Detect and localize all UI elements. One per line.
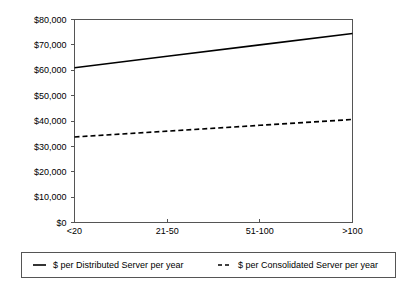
line-chart: $0$10,000$20,000$30,000$40,000$50,000$60… — [0, 0, 417, 290]
y-tick-label: $20,000 — [34, 167, 67, 177]
y-tick-label: $30,000 — [34, 142, 67, 152]
legend-entry-consolidated: $ per Consolidated Server per year — [218, 260, 378, 270]
series-distributed-server-line — [75, 33, 353, 67]
series-consolidated-server-line — [75, 119, 353, 137]
y-tick-label: $80,000 — [34, 15, 67, 25]
y-tick-label: $60,000 — [34, 65, 67, 75]
x-tick-label: 51-100 — [246, 226, 274, 236]
legend-label-distributed: $ per Distributed Server per year — [53, 260, 184, 270]
legend-entry-distributed: $ per Distributed Server per year — [33, 260, 184, 270]
x-tick-label: >100 — [342, 226, 362, 236]
y-tick-label: $40,000 — [34, 116, 67, 126]
y-axis: $0$10,000$20,000$30,000$40,000$50,000$60… — [34, 15, 75, 228]
y-tick-label: $10,000 — [34, 192, 67, 202]
chart-canvas: $0$10,000$20,000$30,000$40,000$50,000$60… — [0, 0, 417, 290]
y-tick-label: $70,000 — [34, 40, 67, 50]
x-tick-label: <20 — [67, 226, 82, 236]
y-tick-label: $0 — [56, 218, 66, 228]
x-tick-label: 21-50 — [156, 226, 179, 236]
y-tick-label: $50,000 — [34, 91, 67, 101]
x-axis: <2021-5051-100>100 — [67, 219, 363, 236]
legend: $ per Distributed Server per year $ per … — [22, 253, 396, 278]
series-group — [75, 33, 353, 137]
legend-label-consolidated: $ per Consolidated Server per year — [238, 260, 378, 270]
